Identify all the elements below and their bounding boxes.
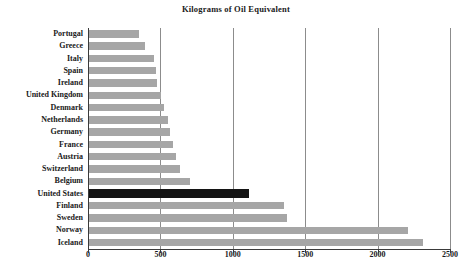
bar (89, 79, 157, 86)
category-axis-labels: PortugalGreeceItalySpainIrelandUnited Ki… (0, 28, 86, 249)
bar (89, 141, 173, 148)
x-tick-mark (88, 249, 89, 253)
category-label: Belgium (55, 175, 83, 187)
bar (89, 116, 168, 123)
bar-row (88, 28, 450, 40)
category-label: Switzerland (42, 163, 83, 175)
x-tick-mark (305, 249, 306, 253)
x-tick-mark (450, 249, 451, 253)
bar (89, 104, 164, 111)
bar-row (88, 163, 450, 175)
bar (89, 55, 154, 62)
x-tick-mark (233, 249, 234, 253)
bar-row (88, 151, 450, 163)
bar (89, 30, 139, 37)
bar-row (88, 53, 450, 65)
gridline (450, 28, 451, 249)
category-label: France (59, 139, 83, 151)
x-axis-tick-labels: 05001000150020002500 (88, 250, 450, 264)
bar (89, 178, 190, 185)
bar-row (88, 139, 450, 151)
bar-row (88, 200, 450, 212)
bar-row (88, 65, 450, 77)
category-label: Iceland (58, 237, 83, 249)
category-label: Italy (67, 53, 83, 65)
category-label: United States (37, 188, 83, 200)
bar (89, 128, 170, 135)
category-label: Denmark (51, 102, 83, 114)
bar (89, 165, 180, 172)
bar-row (88, 175, 450, 187)
category-label: Ireland (58, 77, 83, 89)
bar-row (88, 114, 450, 126)
category-label: Greece (59, 40, 83, 52)
plot-area (88, 28, 450, 249)
bar (89, 227, 408, 234)
bar (89, 153, 176, 160)
bar-row (88, 237, 450, 249)
category-label: Norway (56, 224, 83, 236)
bar-row (88, 89, 450, 101)
bar-row (88, 126, 450, 138)
x-tick-mark (160, 249, 161, 253)
category-label: Netherlands (41, 114, 83, 126)
bar-row (88, 188, 450, 200)
bar (89, 214, 287, 221)
bar-row (88, 40, 450, 52)
bar-series (88, 28, 450, 249)
category-label: Germany (51, 126, 83, 138)
bar (89, 92, 161, 99)
category-label: Spain (63, 65, 83, 77)
category-label: Finland (56, 200, 83, 212)
x-tick-mark (378, 249, 379, 253)
bar-row (88, 212, 450, 224)
category-label: Sweden (57, 212, 83, 224)
bar-row (88, 102, 450, 114)
bar-chart: Kilograms of Oil Equivalent PortugalGree… (0, 0, 472, 274)
bar (89, 239, 423, 246)
category-label: Austria (57, 151, 83, 163)
bar-row (88, 224, 450, 236)
bar (89, 202, 284, 209)
bar (89, 42, 145, 49)
bar-row (88, 77, 450, 89)
bar-highlighted (89, 189, 249, 197)
chart-subtitle: Kilograms of Oil Equivalent (0, 4, 472, 15)
category-label: United Kingdom (26, 89, 83, 101)
bar (89, 67, 156, 74)
category-label: Portugal (53, 28, 83, 40)
